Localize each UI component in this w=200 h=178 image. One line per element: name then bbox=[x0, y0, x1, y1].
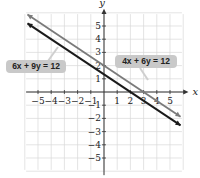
y-tick-label: 1 bbox=[95, 74, 101, 84]
y-tick-label: 4 bbox=[95, 34, 101, 44]
x-tick-label: 1 bbox=[114, 96, 120, 106]
x-tick-label: 5 bbox=[167, 96, 173, 106]
y-tick-label: −5 bbox=[88, 153, 102, 163]
x-tick-label: −3 bbox=[58, 96, 72, 106]
leader-right bbox=[140, 68, 148, 80]
leader-left bbox=[48, 47, 58, 61]
x-tick-label: −4 bbox=[45, 96, 59, 106]
plot-area: −5−4−3−2−112345−5−4−3−2−112345xy bbox=[0, 0, 200, 178]
x-axis-arrow-icon bbox=[183, 90, 188, 95]
y-tick-label: −3 bbox=[88, 127, 102, 137]
y-tick-label: 3 bbox=[95, 47, 101, 57]
x-tick-label: −2 bbox=[71, 96, 84, 106]
y-tick-label: 5 bbox=[95, 21, 101, 31]
x-tick-label: −5 bbox=[31, 96, 45, 106]
chart: −5−4−3−2−112345−5−4−3−2−112345xy 6x + 9y… bbox=[0, 0, 200, 178]
y-axis-label: y bbox=[98, 0, 105, 8]
y-tick-label: −4 bbox=[88, 140, 102, 150]
y-tick-label: −2 bbox=[88, 113, 101, 123]
x-tick-label: 2 bbox=[128, 96, 134, 106]
y-tick-label: −1 bbox=[88, 100, 101, 110]
label-6x-9y: 6x + 9y = 12 bbox=[6, 60, 66, 73]
label-4x-6y: 4x + 6y = 12 bbox=[115, 55, 177, 68]
x-axis-label: x bbox=[192, 86, 198, 97]
y-axis-arrow-icon bbox=[102, 9, 107, 14]
